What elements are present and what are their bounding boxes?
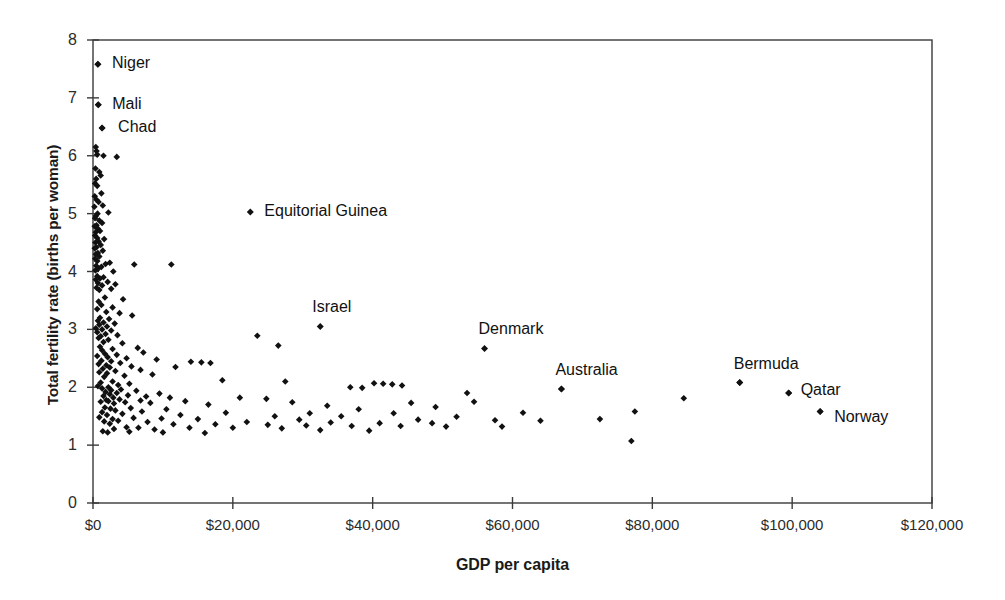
- data-point-marker: [111, 320, 118, 327]
- data-point-marker: [348, 423, 355, 430]
- data-point-marker: [317, 427, 324, 434]
- data-point-marker: [464, 390, 471, 397]
- point-label-australia: Australia: [555, 362, 617, 378]
- data-point-marker: [113, 154, 120, 161]
- data-point-marker: [127, 405, 134, 412]
- data-point-marker: [108, 327, 115, 334]
- point-label-niger: Niger: [112, 55, 150, 71]
- data-point-marker: [271, 413, 278, 420]
- plot-canvas: [0, 0, 1005, 600]
- data-point-marker: [219, 377, 226, 384]
- labeled-data-point-marker: [247, 208, 254, 215]
- plot-frame: [93, 40, 932, 503]
- point-label-mali: Mali: [112, 96, 141, 112]
- point-label-denmark: Denmark: [479, 321, 544, 337]
- data-point-marker: [109, 346, 116, 353]
- data-point-marker: [306, 410, 313, 417]
- data-point-marker: [389, 381, 396, 388]
- data-point-marker: [366, 427, 373, 434]
- point-label-israel: Israel: [312, 299, 351, 315]
- data-point-marker: [120, 296, 127, 303]
- labeled-data-point-marker: [736, 379, 743, 386]
- data-point-marker: [230, 424, 237, 431]
- data-point-marker: [100, 152, 107, 159]
- data-point-marker: [254, 332, 261, 339]
- data-point-marker: [432, 404, 439, 411]
- y-tick-label: 5: [49, 206, 77, 222]
- y-tick-label: 8: [49, 32, 77, 48]
- data-point-marker: [130, 415, 137, 422]
- data-point-marker: [103, 309, 110, 316]
- data-point-marker: [91, 203, 98, 210]
- data-point-marker: [133, 387, 140, 394]
- data-point-marker: [158, 415, 165, 422]
- data-point-marker: [112, 281, 119, 288]
- scatter-chart-figure: Total fertility rate (births per woman) …: [0, 0, 1005, 600]
- data-point-marker: [99, 428, 106, 435]
- data-point-marker: [153, 356, 160, 363]
- data-point-marker: [207, 360, 214, 367]
- data-point-marker: [109, 304, 116, 311]
- data-point-marker: [202, 430, 209, 437]
- data-point-marker: [105, 209, 112, 216]
- data-point-marker: [264, 422, 271, 429]
- data-point-marker: [109, 378, 116, 385]
- x-tick-label: $80,000: [625, 517, 679, 532]
- data-point-marker: [139, 408, 146, 415]
- data-point-marker: [121, 372, 128, 379]
- data-point-marker: [188, 358, 195, 365]
- data-point-marker: [177, 412, 184, 419]
- y-tick-label: 1: [49, 437, 77, 453]
- data-point-marker: [338, 413, 345, 420]
- data-point-marker: [296, 416, 303, 423]
- data-point-marker: [172, 364, 179, 371]
- data-point-marker: [443, 423, 450, 430]
- data-point-marker: [397, 423, 404, 430]
- data-point-marker: [147, 400, 154, 407]
- data-point-marker: [499, 423, 506, 430]
- data-point-marker: [104, 429, 111, 436]
- labeled-data-point-marker: [95, 101, 102, 108]
- data-point-marker: [205, 401, 212, 408]
- data-point-marker: [119, 340, 126, 347]
- data-point-marker: [98, 190, 105, 197]
- data-point-marker: [111, 426, 118, 433]
- data-point-marker: [143, 393, 150, 400]
- y-tick-label: 7: [49, 90, 77, 106]
- data-point-marker: [628, 438, 635, 445]
- data-point-marker: [212, 421, 219, 428]
- data-point-marker: [380, 380, 387, 387]
- data-point-marker: [123, 355, 130, 362]
- data-point-marker: [223, 409, 230, 416]
- data-point-marker: [106, 316, 113, 323]
- point-label-norway: Norway: [834, 409, 888, 425]
- data-point-marker: [492, 417, 499, 424]
- data-point-marker: [170, 421, 177, 428]
- point-label-equitorial-guinea: Equitorial Guinea: [264, 203, 387, 219]
- data-point-marker: [376, 420, 383, 427]
- data-point-marker: [96, 414, 103, 421]
- y-tick-label: 2: [49, 379, 77, 395]
- data-point-marker: [93, 176, 100, 183]
- data-point-marker: [163, 406, 170, 413]
- data-point-marker: [129, 312, 136, 319]
- data-point-marker: [537, 418, 544, 425]
- data-point-marker: [115, 418, 122, 425]
- data-point-marker: [112, 368, 119, 375]
- data-point-marker: [632, 408, 639, 415]
- data-point-marker: [408, 400, 415, 407]
- data-point-marker: [119, 411, 126, 418]
- data-point-marker: [102, 294, 109, 301]
- data-point-marker: [453, 413, 460, 420]
- data-point-marker: [94, 306, 101, 313]
- y-tick-label: 6: [49, 148, 77, 164]
- data-point-marker: [144, 419, 151, 426]
- data-point-marker: [94, 353, 101, 360]
- x-tick-label: $0: [85, 517, 102, 532]
- data-point-marker: [597, 416, 604, 423]
- data-point-marker: [114, 332, 121, 339]
- data-point-marker: [244, 419, 251, 426]
- data-point-marker: [110, 268, 117, 275]
- data-point-marker: [186, 424, 193, 431]
- x-tick-label: $60,000: [485, 517, 539, 532]
